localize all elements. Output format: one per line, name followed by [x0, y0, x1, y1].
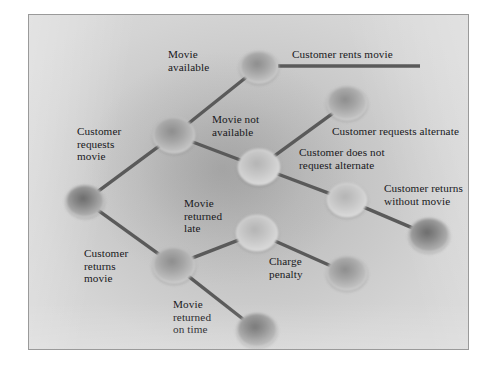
- customer-returns-node: [152, 247, 197, 286]
- node-ellipse: [237, 313, 277, 347]
- label-customer-requests-movie: Customer requests movie: [77, 125, 121, 163]
- root-node: [65, 185, 106, 220]
- node-ellipse: [153, 247, 195, 283]
- node-ellipse: [240, 51, 278, 83]
- node-ellipse: [238, 149, 280, 185]
- movie-rented-node: [239, 51, 280, 86]
- no-alternate-node: [326, 183, 369, 220]
- requests-alternate-node: [326, 86, 369, 123]
- edge-noalternate-returns: [363, 207, 413, 228]
- charge-penalty-node: [326, 256, 369, 293]
- label-movie-returned-on-time: Movie returned on time: [173, 298, 211, 336]
- scanned-figure-plate: Customer requests movieCustomer returns …: [28, 14, 469, 350]
- movie-not-available-node: [237, 149, 282, 188]
- node-ellipse: [66, 185, 104, 217]
- edge-layer: [98, 66, 420, 320]
- returned-on-time-node: [236, 313, 279, 350]
- node-ellipse: [327, 183, 367, 217]
- label-customer-returns-without-movie: Customer returns without movie: [384, 182, 463, 207]
- returned-late-node: [235, 215, 280, 254]
- customer-requests-node: [152, 117, 197, 156]
- decision-tree-figure: Customer requests movieCustomer returns …: [0, 0, 497, 365]
- node-ellipse: [153, 117, 195, 153]
- edge-notavailable-noalternate: [276, 174, 330, 194]
- label-customer-returns-movie: Customer returns movie: [84, 247, 128, 285]
- label-customer-requests-alternate: Customer requests alternate: [332, 125, 459, 138]
- label-movie-available: Movie available: [168, 48, 209, 73]
- edge-requests-notavailable: [191, 142, 241, 161]
- label-customer-does-not-request-alternate: Customer does not request alternate: [299, 146, 385, 171]
- returns-without-movie-node: [408, 218, 451, 255]
- node-ellipse: [327, 256, 367, 290]
- node-ellipse: [409, 218, 449, 252]
- label-customer-rents-movie: Customer rents movie: [292, 48, 393, 61]
- node-ellipse: [236, 215, 278, 251]
- label-movie-returned-late: Movie returned late: [184, 197, 222, 235]
- label-charge-penalty: Charge penalty: [269, 255, 303, 280]
- label-movie-not-available: Movie not available: [212, 113, 259, 138]
- edge-returns-late: [191, 240, 239, 259]
- node-ellipse: [327, 86, 367, 120]
